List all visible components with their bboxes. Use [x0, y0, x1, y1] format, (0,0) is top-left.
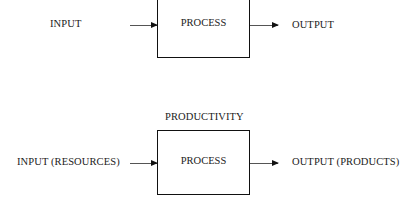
- bottom-output-arrow: [250, 163, 278, 164]
- bottom-process-box: PROCESS: [157, 130, 250, 195]
- productivity-title: PRODUCTIVITY: [165, 111, 244, 122]
- bottom-output-label: OUTPUT (PRODUCTS): [292, 156, 399, 167]
- top-process-box: PROCESS: [157, 0, 250, 58]
- top-input-arrow: [130, 25, 157, 26]
- top-output-arrow: [250, 25, 278, 26]
- bottom-input-arrow: [130, 163, 157, 164]
- bottom-process-label: PROCESS: [158, 155, 249, 166]
- top-input-label: INPUT: [50, 18, 81, 29]
- bottom-input-label: INPUT (RESOURCES): [17, 156, 120, 167]
- top-output-label: OUTPUT: [292, 19, 334, 30]
- top-process-label: PROCESS: [158, 17, 249, 28]
